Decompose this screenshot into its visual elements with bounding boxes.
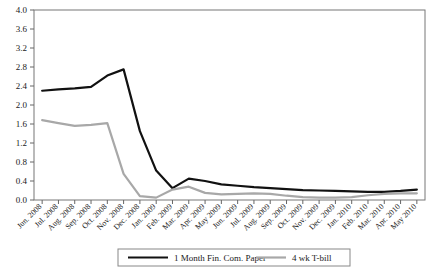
legend-label: 4 wk T-bill — [292, 253, 332, 263]
line-chart: 0.00.40.81.21.62.02.42.83.23.64.0Jun. 20… — [0, 0, 440, 270]
y-tick-label: 0.4 — [16, 176, 28, 186]
y-tick-label: 0.0 — [16, 195, 28, 205]
y-tick-label: 4.0 — [16, 5, 28, 15]
legend-label: 1 Month Fin. Com. Paper — [174, 253, 266, 263]
y-tick-label: 3.2 — [16, 43, 27, 53]
y-tick-label: 2.0 — [16, 100, 28, 110]
chart-page: 0.00.40.81.21.62.02.42.83.23.64.0Jun. 20… — [0, 0, 440, 270]
y-tick-label: 2.4 — [16, 81, 28, 91]
x-axis: Jun. 2008Jul. 2008Aug. 2008Sep. 2008Oct.… — [15, 200, 418, 232]
y-tick-label: 2.8 — [16, 62, 28, 72]
y-axis: 0.00.40.81.21.62.02.42.83.23.64.0 — [16, 5, 34, 205]
series-line — [42, 69, 417, 192]
series-group — [42, 69, 417, 197]
y-tick-label: 0.8 — [16, 157, 28, 167]
y-tick-label: 1.6 — [16, 119, 28, 129]
plot-area — [34, 10, 425, 200]
legend: 1 Month Fin. Com. Paper4 wk T-bill — [118, 249, 350, 266]
y-tick-label: 1.2 — [16, 138, 27, 148]
y-tick-label: 3.6 — [16, 24, 28, 34]
